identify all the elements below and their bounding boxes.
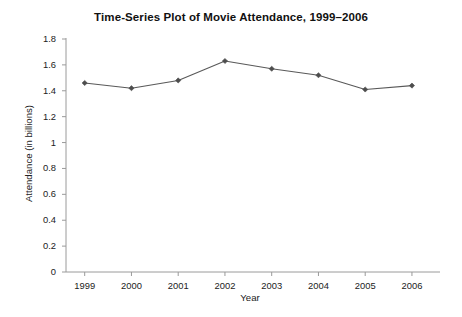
data-point-marker: [82, 80, 87, 85]
y-axis-tick-label: 0.8: [22, 162, 56, 173]
data-point-marker: [316, 73, 321, 78]
data-point-marker: [363, 87, 368, 92]
y-axis-tick-label: 0.2: [22, 240, 56, 251]
data-point-marker: [129, 86, 134, 91]
y-axis-tick-label: 1.6: [22, 59, 56, 70]
data-point-marker: [269, 66, 274, 71]
y-axis-tick-label: 0.4: [22, 214, 56, 225]
plot-area: [0, 0, 462, 317]
x-axis-tick-label: 1999: [60, 280, 110, 291]
data-point-marker: [409, 83, 414, 88]
data-point-marker: [222, 58, 227, 63]
series-line-movie-attendance: [85, 61, 412, 89]
x-axis-tick-label: 2000: [106, 280, 156, 291]
x-axis-tick-label: 2001: [153, 280, 203, 291]
x-axis-tick-label: 2005: [340, 280, 390, 291]
chart-container: Time-Series Plot of Movie Attendance, 19…: [0, 0, 462, 317]
x-axis-tick-label: 2006: [387, 280, 437, 291]
y-axis-tick-label: 1.2: [22, 111, 56, 122]
y-axis-tick-label: 0.6: [22, 188, 56, 199]
x-axis-tick-label: 2004: [293, 280, 343, 291]
y-axis-tick-label: 1.8: [22, 33, 56, 44]
data-point-marker: [176, 78, 181, 83]
y-axis-tick-label: 0: [22, 266, 56, 277]
y-axis-tick-label: 1.4: [22, 85, 56, 96]
x-axis-tick-label: 2002: [200, 280, 250, 291]
x-axis-tick-label: 2003: [247, 280, 297, 291]
y-axis-tick-label: 1: [22, 137, 56, 148]
